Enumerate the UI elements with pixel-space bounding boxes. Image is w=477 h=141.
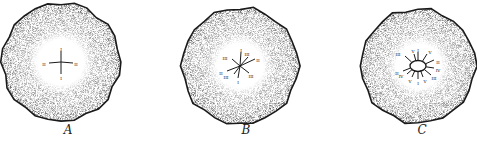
arm-label: II xyxy=(42,62,46,67)
figure-canvas: IIIIIIAIIIIIIIIIIIIIIIIIIBIIIIIIIIIIIIIV… xyxy=(0,0,477,141)
arm-label: III xyxy=(249,74,254,79)
arm-label: II xyxy=(436,60,440,65)
panel-label-c: C xyxy=(417,123,426,137)
arm-label: III xyxy=(223,56,228,61)
arm-label: II xyxy=(219,71,223,76)
arm-label: III xyxy=(224,75,229,80)
section-panel-c: IIIIIIIIIIIIIVIVVVVVC xyxy=(360,9,477,137)
section-panel-a: IIIIIIA xyxy=(1,3,121,137)
arm-label: II xyxy=(256,58,260,63)
section-panel-b: IIIIIIIIIIIIIIIIIIB xyxy=(180,7,300,137)
arm-label: II xyxy=(74,62,78,67)
arm-label: III xyxy=(245,52,250,57)
panel-label-a: A xyxy=(63,123,73,137)
panel-label-b: B xyxy=(241,123,251,137)
arm-label: III xyxy=(396,52,401,57)
arm-label: III xyxy=(432,76,437,81)
